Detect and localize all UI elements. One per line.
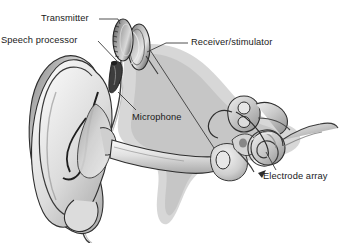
label-speech-processor: Speech processor [1,36,78,45]
cochlear-implant-figure: Transmitter Speech processor Receiver/st… [0,0,348,243]
label-transmitter: Transmitter [41,14,89,23]
label-receiver-stimulator: Receiver/stimulator [191,38,272,47]
label-electrode-array: Electrode array [263,172,328,181]
label-microphone: Microphone [132,113,182,122]
outer-ear-pinna [29,56,116,234]
